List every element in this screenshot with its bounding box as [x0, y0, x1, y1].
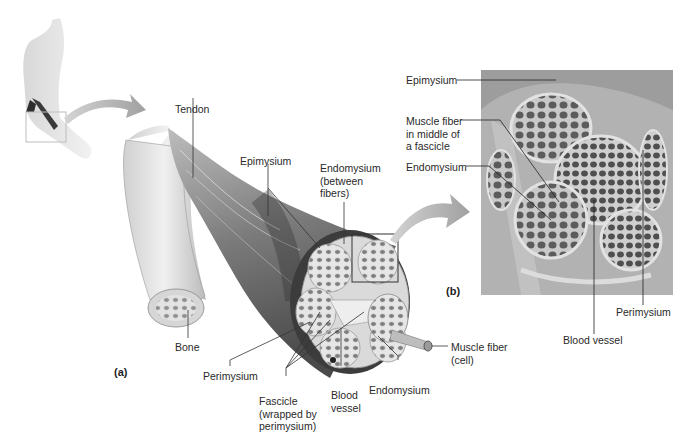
label-micro-epimysium: Epimysium	[406, 74, 457, 87]
label-fascicle: Fascicle (wrapped by perimysium)	[259, 395, 317, 433]
panel-label-a: (a)	[114, 366, 127, 378]
label-micro-endomysium: Endomysium	[406, 161, 467, 174]
label-micro-muscle-fiber: Muscle fiber in middle of a fascicle	[406, 115, 463, 153]
label-tendon: Tendon	[175, 103, 209, 116]
label-bone: Bone	[175, 341, 200, 354]
label-epimysium: Epimysium	[240, 155, 291, 168]
label-endomysium-between-fibers: Endomysium (between fibers)	[320, 162, 381, 200]
label-micro-blood-vessel: Blood vessel	[563, 334, 623, 347]
micrograph-leader-lines	[0, 0, 694, 446]
label-muscle-fiber-cell: Muscle fiber (cell)	[451, 341, 508, 366]
label-micro-perimysium: Perimysium	[616, 306, 671, 319]
label-perimysium: Perimysium	[203, 370, 258, 383]
label-endomysium: Endomysium	[369, 384, 430, 397]
label-blood-vessel: Blood vessel	[331, 389, 361, 414]
panel-label-b: (b)	[446, 285, 460, 297]
